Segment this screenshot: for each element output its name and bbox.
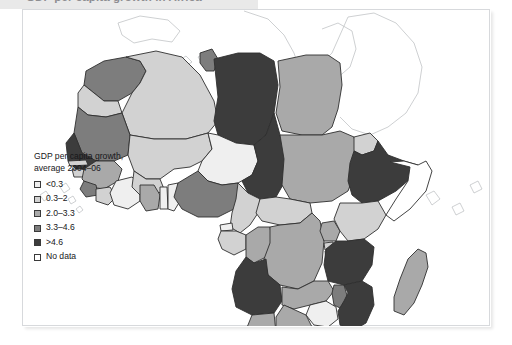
country-zimbabwe[interactable] <box>306 301 338 326</box>
legend-title-line2: average 2004–06 <box>34 162 164 174</box>
country-kenya[interactable] <box>334 201 386 241</box>
legend-swatch <box>34 254 41 261</box>
legend-swatch <box>34 181 41 188</box>
map-legend: GDP per capita growth, average 2004–06 <… <box>34 150 164 264</box>
country-tanzania[interactable] <box>324 239 374 285</box>
country-equatorial-guinea[interactable] <box>220 223 233 231</box>
legend-label: >4.6 <box>46 237 63 248</box>
country-madagascar[interactable] <box>394 249 428 315</box>
legend-swatch <box>34 210 41 217</box>
legend-item: 3.3–4.6 <box>34 221 164 236</box>
country-egypt[interactable] <box>276 55 342 135</box>
legend-label: 3.3–4.6 <box>46 222 75 233</box>
legend-item: 0.3–2 <box>34 192 164 207</box>
country-gabon[interactable] <box>218 231 246 255</box>
legend-label: 2.0–3.3 <box>46 208 75 219</box>
legend-label: <0.3 <box>46 179 63 190</box>
legend-item: <0.3 <box>34 177 164 192</box>
legend-label: No data <box>46 251 76 262</box>
figure-caption: GDP per capita growth in Africa <box>26 0 202 3</box>
legend-swatch <box>34 225 41 232</box>
legend-title: GDP per capita growth, average 2004–06 <box>34 150 164 174</box>
legend-swatch <box>34 196 41 203</box>
country-sudan[interactable] <box>280 131 358 203</box>
legend-swatch <box>34 239 41 246</box>
legend-label: 0.3–2 <box>46 193 68 204</box>
legend-item: 2.0–3.3 <box>34 206 164 221</box>
legend-item: No data <box>34 250 164 265</box>
country-dr-congo[interactable] <box>264 213 324 289</box>
legend-title-line1: GDP per capita growth, <box>34 150 164 162</box>
legend-items: <0.30.3–22.0–3.33.3–4.6>4.6No data <box>34 177 164 264</box>
figure-caption-strip: GDP per capita growth in Africa <box>0 0 258 9</box>
legend-item: >4.6 <box>34 235 164 250</box>
country-namibia[interactable] <box>244 313 276 326</box>
